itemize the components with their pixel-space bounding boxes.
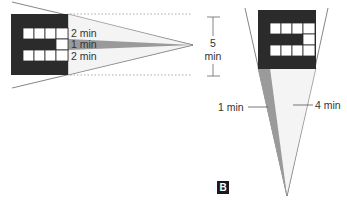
grid-bottom-row-vertical bbox=[270, 45, 315, 56]
panel-label-text: B bbox=[219, 182, 226, 193]
grid-middle-cell bbox=[56, 39, 68, 50]
grid-top-row-vertical bbox=[270, 23, 315, 34]
panel-label-badge: B bbox=[217, 181, 229, 194]
scale-unit: min bbox=[205, 50, 222, 62]
label-gap: 1 min bbox=[218, 101, 244, 113]
label-middle-band: 1 min bbox=[71, 38, 97, 50]
label-bottom-band: 2 min bbox=[71, 50, 97, 62]
grid-bottom-row bbox=[23, 50, 68, 61]
label-total: 4 min bbox=[315, 99, 341, 111]
vertical-view: 1 min 4 min bbox=[218, 8, 341, 196]
grid-middle-cell-vertical bbox=[303, 34, 315, 45]
grid-top-row bbox=[23, 28, 68, 39]
horizontal-view: 2 min 1 min 2 min 5 min bbox=[11, 2, 222, 88]
scale-value: 5 bbox=[210, 37, 216, 49]
optotype-diagram: 2 min 1 min 2 min 5 min bbox=[0, 0, 347, 207]
